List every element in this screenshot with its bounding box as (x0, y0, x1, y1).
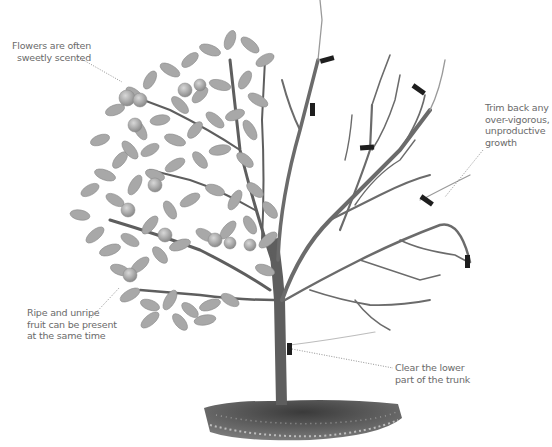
annotation-trim-growth: Trim back any over-vigorous, unproductiv… (485, 102, 550, 148)
annotation-flowers: Flowers are often sweetly scented (12, 40, 91, 63)
annotation-clear-trunk: Clear the lower part of the trunk (395, 362, 470, 385)
annotation-ripe-fruit: Ripe and unripe fruit can be present at … (27, 307, 117, 342)
trunk (268, 238, 287, 405)
bare-branches (278, 0, 470, 345)
soil-mound (204, 400, 402, 440)
cut-marks (287, 55, 470, 355)
pruning-diagram: Flowers are often sweetly scented Trim b… (0, 0, 552, 447)
